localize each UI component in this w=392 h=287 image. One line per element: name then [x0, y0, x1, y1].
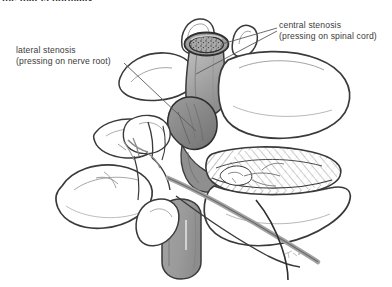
- annotation-lateral-line1: lateral stenosis: [16, 45, 76, 55]
- annotation-lateral-line2: (pressing on nerve root): [16, 56, 111, 67]
- inferior-articular-process: [123, 115, 170, 153]
- upper-vertebra-lamina: [119, 53, 195, 101]
- superior-articular-process-right: [232, 25, 257, 57]
- annotation-central-stenosis: central stenosis (pressing on spinal cor…: [279, 20, 377, 41]
- artist-signature: [285, 251, 300, 258]
- spinal-stenosis-illustration: [0, 0, 392, 287]
- intervertebral-disc-annulus: [206, 147, 341, 196]
- annotation-central-line1: central stenosis: [279, 20, 341, 30]
- annotation-lateral-stenosis: lateral stenosis (pressing on nerve root…: [16, 45, 111, 66]
- vertebral-body-upper: [218, 52, 349, 139]
- figure-canvas: the that is normally: [0, 0, 392, 287]
- annotation-central-line2: (pressing on spinal cord): [279, 31, 377, 42]
